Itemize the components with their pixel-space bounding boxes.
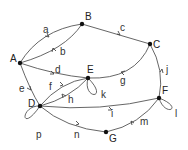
edge-c	[82, 24, 150, 44]
node-label-E: E	[87, 64, 94, 75]
edge-label-i: i	[111, 108, 113, 119]
edge-label-h: h	[68, 94, 74, 105]
node-C	[148, 42, 152, 46]
node-E	[86, 76, 90, 80]
edge-label-l: l	[175, 108, 177, 119]
edge-l	[159, 98, 172, 110]
edge-label-g: g	[120, 75, 126, 86]
node-label-C: C	[153, 39, 160, 50]
edge-label-c: c	[120, 22, 125, 33]
edge-f	[40, 78, 88, 106]
graph-diagram: A B C D E F G a b c d e f g h i j k l m …	[0, 0, 188, 150]
edge-k	[87, 78, 96, 95]
edge-label-d: d	[55, 64, 61, 75]
node-label-A: A	[10, 53, 17, 64]
node-label-D: D	[28, 98, 35, 109]
edge-label-p: p	[36, 129, 42, 140]
node-label-G: G	[109, 133, 117, 144]
node-B	[80, 22, 84, 26]
edge-label-k: k	[101, 89, 107, 100]
edge-a	[20, 24, 82, 63]
edge-d	[20, 63, 88, 78]
edge-label-f: f	[49, 81, 52, 92]
node-label-F: F	[162, 85, 168, 96]
edge-b	[20, 24, 82, 63]
edge-h	[40, 78, 88, 106]
node-D	[38, 104, 42, 108]
edge-g	[88, 44, 150, 78]
edge-n	[40, 106, 106, 132]
edge-label-a: a	[43, 24, 49, 35]
node-F	[157, 96, 161, 100]
edge-j	[150, 44, 161, 98]
edge-label-e: e	[19, 83, 25, 94]
node-A	[18, 61, 22, 65]
edge-label-m: m	[140, 116, 148, 127]
edge-label-n: n	[74, 129, 80, 140]
edge-label-b: b	[60, 46, 66, 57]
node-label-B: B	[85, 11, 92, 22]
node-G	[104, 130, 108, 134]
edge-label-j: j	[165, 64, 168, 75]
